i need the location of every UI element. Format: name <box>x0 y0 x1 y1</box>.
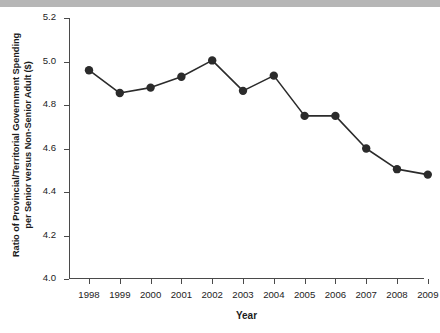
y-axis-tick-label: 5.2 <box>43 11 56 22</box>
x-axis-tick <box>305 279 306 284</box>
x-axis-tick <box>428 279 429 284</box>
line-series <box>69 18 424 279</box>
chart-figure: Ratio of Provincial/Territorial Governme… <box>0 0 440 333</box>
x-axis-tick <box>151 279 152 284</box>
data-point-marker <box>177 73 185 81</box>
x-axis-tick-label: 2009 <box>417 289 438 300</box>
x-axis-tick <box>397 279 398 284</box>
x-axis-tick-label: 2000 <box>140 289 161 300</box>
data-point-marker <box>116 89 124 97</box>
y-axis-tick-label: 4.8 <box>43 98 56 109</box>
x-axis-tick-label: 2006 <box>325 289 346 300</box>
data-point-marker <box>424 170 432 178</box>
x-axis-tick-label: 2005 <box>294 289 315 300</box>
x-axis-tick <box>274 279 275 284</box>
data-point-marker <box>393 165 401 173</box>
y-axis-tick-label: 4.4 <box>43 185 56 196</box>
data-point-marker <box>239 87 247 95</box>
x-axis-title: Year <box>69 310 424 321</box>
data-point-marker <box>146 83 154 91</box>
x-axis-tick <box>89 279 90 284</box>
x-axis-tick-label: 1998 <box>78 289 99 300</box>
x-axis-tick-label: 2008 <box>386 289 407 300</box>
x-axis-tick <box>181 279 182 284</box>
data-point-marker <box>331 112 339 120</box>
data-point-marker <box>208 56 216 64</box>
series-line <box>89 60 428 174</box>
x-axis-tick-label: 1999 <box>109 289 130 300</box>
x-axis-tick-label: 2002 <box>202 289 223 300</box>
data-point-marker <box>270 71 278 79</box>
x-axis-tick <box>243 279 244 284</box>
x-axis-tick <box>335 279 336 284</box>
x-axis-tick-label: 2007 <box>356 289 377 300</box>
y-axis-tick: 4.0 <box>64 279 69 280</box>
data-point-marker <box>362 144 370 152</box>
y-axis-tick-label: 4.0 <box>43 272 56 283</box>
data-point-marker <box>85 66 93 74</box>
x-axis-tick-label: 2004 <box>263 289 284 300</box>
data-point-marker <box>300 112 308 120</box>
x-axis-tick-label: 2001 <box>171 289 192 300</box>
y-axis-tick-label: 4.2 <box>43 229 56 240</box>
plot-area: 4.04.24.44.64.85.05.2 199819992000200120… <box>69 18 424 278</box>
x-axis-tick-label: 2003 <box>232 289 253 300</box>
y-axis-title: Ratio of Provincial/Territorial Governme… <box>0 0 40 290</box>
y-axis-tick-label: 5.0 <box>43 55 56 66</box>
x-axis-tick <box>120 279 121 284</box>
x-axis-tick <box>366 279 367 284</box>
y-axis-tick-label: 4.6 <box>43 142 56 153</box>
x-axis-tick <box>212 279 213 284</box>
